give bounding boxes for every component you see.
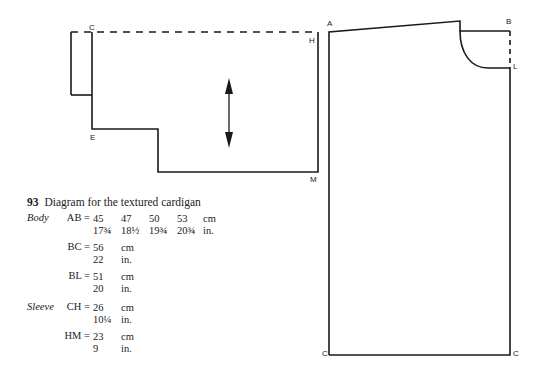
sleeve-outline bbox=[92, 32, 318, 172]
AB-in-1: 17¾ bbox=[93, 224, 111, 237]
grain-arrow-icon bbox=[225, 78, 233, 148]
AB-in-3: 19¾ bbox=[149, 224, 167, 237]
HM-in: 9 bbox=[93, 342, 98, 355]
figure-caption: 93 Diagram for the textured cardigan bbox=[27, 196, 201, 208]
label-A: A bbox=[327, 19, 333, 28]
body-shoulder-outline bbox=[329, 21, 510, 355]
CH-unit-in: in. bbox=[121, 313, 132, 326]
figure-number: 93 bbox=[27, 196, 39, 208]
BC-unit-in: in. bbox=[121, 253, 132, 266]
label-L: L bbox=[513, 62, 518, 71]
body-piece bbox=[329, 21, 510, 355]
label-H: H bbox=[309, 36, 315, 45]
label-C-sleeve: C bbox=[89, 23, 95, 32]
AB-in-2: 18½ bbox=[121, 224, 139, 237]
label-M: M bbox=[310, 175, 317, 184]
key-BL: BL = bbox=[40, 269, 90, 282]
BC-in: 22 bbox=[93, 253, 104, 266]
key-BC: BC = bbox=[40, 240, 90, 253]
label-C-left: C bbox=[322, 349, 328, 358]
label-E: E bbox=[90, 133, 95, 142]
CH-in: 10¼ bbox=[93, 313, 111, 326]
label-C-right: C bbox=[513, 349, 519, 358]
sleeve-piece bbox=[71, 32, 318, 172]
key-AB: AB = bbox=[40, 211, 90, 224]
HM-unit-in: in. bbox=[121, 342, 132, 355]
AB-unit-in: in. bbox=[203, 224, 214, 237]
AB-in-4: 20¾ bbox=[177, 224, 195, 237]
body-neck-side-outline bbox=[329, 31, 510, 355]
BL-in: 20 bbox=[93, 282, 104, 295]
label-B: B bbox=[506, 17, 511, 26]
figure-caption-text: Diagram for the textured cardigan bbox=[44, 196, 200, 208]
BL-unit-in: in. bbox=[121, 282, 132, 295]
key-CH: CH = bbox=[40, 300, 90, 313]
pattern-diagram: C H E M A B L C C bbox=[0, 0, 546, 379]
key-HM: HM = bbox=[40, 329, 90, 342]
